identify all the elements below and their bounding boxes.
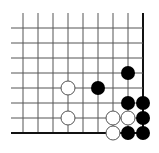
black-stone[interactable]	[121, 66, 135, 80]
black-stone[interactable]	[121, 96, 135, 110]
black-stone[interactable]	[136, 96, 150, 110]
white-stone[interactable]	[106, 126, 120, 140]
white-stone[interactable]	[121, 111, 135, 125]
black-stone[interactable]	[121, 126, 135, 140]
white-stone[interactable]	[61, 81, 75, 95]
black-stone[interactable]	[136, 126, 150, 140]
go-board[interactable]	[0, 0, 159, 153]
black-stone[interactable]	[91, 81, 105, 95]
black-stone[interactable]	[136, 111, 150, 125]
white-stone[interactable]	[106, 111, 120, 125]
white-stone[interactable]	[61, 111, 75, 125]
